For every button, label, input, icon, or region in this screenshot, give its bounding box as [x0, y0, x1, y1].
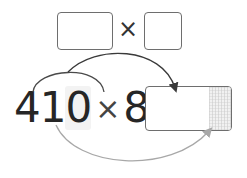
multiplication-diagram: × 410×8=	[0, 0, 247, 178]
digit-hundreds: 4	[14, 86, 40, 130]
answer-box[interactable]	[145, 86, 232, 131]
answer-ones-shaded-region	[209, 87, 231, 130]
times-sign: ×	[95, 87, 119, 131]
top-times-sign: ×	[117, 14, 139, 44]
top-right-answer-box[interactable]	[144, 12, 182, 50]
top-left-answer-box[interactable]	[57, 12, 113, 50]
digit-tens: 1	[40, 86, 66, 130]
digit-ones-highlighted: 0	[65, 86, 91, 130]
